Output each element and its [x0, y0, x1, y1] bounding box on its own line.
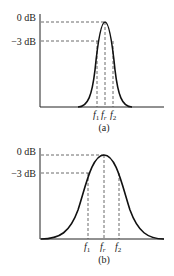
- label-minus3db: −3 dB: [11, 168, 36, 179]
- label-minus3db: −3 dB: [11, 36, 36, 47]
- panel-b: 0 dB −3 dB f1 fr f2 (b): [11, 146, 164, 266]
- response-curve: [41, 155, 164, 239]
- label-f1: f1: [84, 241, 91, 254]
- label-fr: fr: [100, 241, 106, 254]
- caption-a: (a): [98, 122, 109, 134]
- panel-a: 0 dB −3 dB f1 fr f2 (a): [11, 12, 164, 134]
- label-f2: f2: [110, 109, 117, 122]
- label-0db: 0 dB: [17, 12, 37, 23]
- label-0db: 0 dB: [17, 146, 37, 157]
- label-f2: f2: [115, 241, 122, 254]
- label-fr: fr: [101, 109, 107, 122]
- caption-b: (b): [98, 254, 110, 266]
- resonance-diagram: 0 dB −3 dB f1 fr f2 (a) 0 dB −3 dB f1 fr…: [0, 0, 174, 276]
- label-f1: f1: [93, 109, 100, 122]
